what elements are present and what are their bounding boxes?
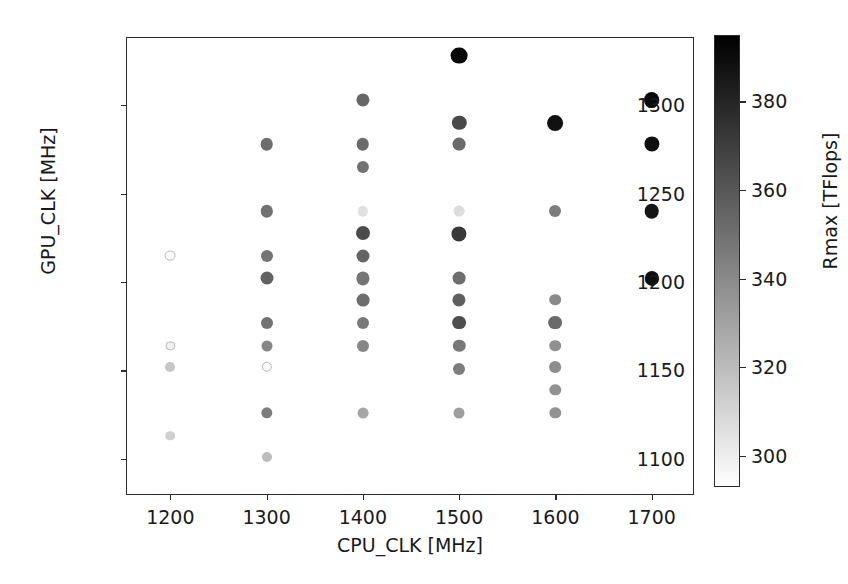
data-point — [356, 226, 370, 240]
data-point — [452, 227, 467, 242]
data-point — [358, 206, 368, 216]
data-point — [165, 250, 176, 261]
x-tick-mark — [170, 494, 171, 500]
data-point — [550, 361, 562, 373]
colorbar-gradient — [714, 35, 740, 487]
data-point — [549, 316, 563, 330]
data-point — [357, 407, 368, 418]
data-point — [453, 138, 466, 151]
data-point — [453, 339, 465, 351]
data-point — [644, 137, 659, 152]
y-tick-mark — [121, 370, 127, 371]
data-point — [356, 272, 369, 285]
data-point — [550, 294, 562, 306]
colorbar-tick-mark — [740, 367, 746, 368]
data-point — [261, 340, 272, 351]
colorbar-tick-label: 340 — [751, 268, 787, 290]
x-tick-mark — [652, 494, 653, 500]
x-tick-label: 1500 — [435, 506, 483, 528]
data-point — [261, 407, 272, 418]
data-point — [357, 138, 370, 151]
data-point — [356, 249, 369, 262]
data-point — [166, 431, 176, 441]
data-point — [453, 293, 466, 306]
data-point — [644, 204, 659, 219]
y-axis-label: GPU_CLK [MHz] — [37, 71, 59, 331]
data-point — [451, 47, 468, 64]
x-tick-label: 1400 — [339, 506, 387, 528]
data-point — [550, 407, 561, 418]
colorbar-tick-label: 360 — [751, 179, 787, 201]
y-tick-mark — [121, 194, 127, 195]
data-point — [356, 93, 369, 106]
colorbar-label: Rmax [TFlops] — [819, 71, 841, 331]
x-tick-mark — [363, 494, 364, 500]
colorbar: 300320340360380 — [714, 35, 740, 487]
data-point — [548, 115, 564, 131]
x-tick-label: 1700 — [627, 506, 675, 528]
x-tick-mark — [555, 494, 556, 500]
scatter-figure: 11001150120012501300 1200130014001500160… — [0, 0, 848, 584]
x-axis-label: CPU_CLK [MHz] — [126, 534, 694, 556]
colorbar-tick-mark — [740, 456, 746, 457]
data-point — [260, 205, 272, 217]
data-point — [261, 317, 273, 329]
colorbar-tick-mark — [740, 279, 746, 280]
data-point — [453, 272, 466, 285]
data-point — [357, 317, 369, 329]
x-tick-label: 1600 — [531, 506, 579, 528]
data-point — [260, 138, 273, 151]
data-point — [260, 272, 273, 285]
data-point — [452, 316, 466, 330]
y-tick-mark — [121, 282, 127, 283]
colorbar-tick-label: 300 — [751, 445, 787, 467]
colorbar-tick-mark — [740, 101, 746, 102]
data-point — [166, 341, 175, 350]
data-point — [165, 362, 175, 372]
plot-area: 11001150120012501300 1200130014001500160… — [126, 37, 694, 495]
data-point — [357, 161, 369, 173]
y-tick-label: 1100 — [637, 448, 685, 470]
data-point — [261, 250, 273, 262]
x-tick-label: 1300 — [242, 506, 290, 528]
colorbar-tick-label: 380 — [751, 90, 787, 112]
colorbar-tick-mark — [740, 190, 746, 191]
data-point — [454, 407, 465, 418]
data-point — [550, 384, 561, 395]
data-point — [452, 116, 466, 130]
data-point — [549, 205, 561, 217]
x-tick-label: 1200 — [146, 506, 194, 528]
colorbar-tick-label: 320 — [751, 356, 787, 378]
y-tick-label: 1200 — [637, 271, 685, 293]
x-tick-mark — [267, 494, 268, 500]
data-point — [262, 452, 272, 462]
data-point — [454, 206, 465, 217]
y-tick-mark — [121, 105, 127, 106]
data-point — [453, 363, 465, 375]
data-point — [550, 340, 562, 352]
y-tick-label: 1300 — [637, 94, 685, 116]
data-point — [261, 362, 271, 372]
data-point — [356, 293, 369, 306]
y-tick-label: 1150 — [637, 359, 685, 381]
y-tick-mark — [121, 459, 127, 460]
y-tick-label: 1250 — [637, 183, 685, 205]
x-tick-mark — [459, 494, 460, 500]
data-point — [357, 340, 369, 352]
